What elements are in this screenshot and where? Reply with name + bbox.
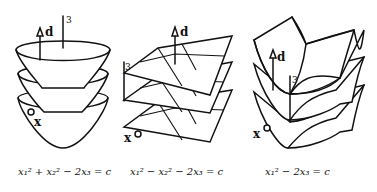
point-marker [135,131,141,137]
paraboloid-drawing: 3 d x [0,0,125,160]
arrow-up-icon [37,28,43,36]
direction-label: d [45,25,54,39]
saddle-drawing: 3 d x [120,0,245,160]
caption-hyperbolic-paraboloid: x₁² − x₂² − 2x₃ = c [130,166,223,177]
point-label: x [253,127,261,141]
cylinder-drawing: 3 d x [240,0,377,160]
direction-label: d [277,50,286,64]
axis-3-label: 3 [292,75,298,85]
point-label: x [34,115,42,129]
figure-elliptic-paraboloid: 3 d x [0,0,125,160]
caption-elliptic-paraboloid: x₁² + x₂² − 2x₃ = c [18,166,111,177]
point-marker [264,125,270,131]
caption-parabolic-cylinder: x₁² − 2x₃ = c [265,166,330,177]
figure-hyperbolic-paraboloid: 3 d x [120,0,245,160]
axis-3-label: 3 [66,15,72,25]
point-label: x [124,131,132,145]
axis-3-label: 3 [125,62,131,72]
direction-label: d [180,25,189,39]
figure-parabolic-cylinder: 3 d x [240,0,377,160]
arrow-up-icon [172,27,178,36]
